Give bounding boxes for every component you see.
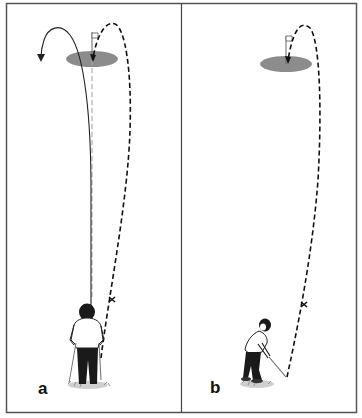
panel-b [240, 25, 320, 388]
ball-trajectory-b [287, 25, 320, 377]
figure-canvas [0, 0, 362, 418]
arrow-head-icon [37, 54, 45, 62]
golf-trajectory-figure: a b [0, 0, 362, 418]
fade-ball-trajectory-a [93, 23, 130, 358]
panel-a [37, 23, 130, 389]
golfer-side-view [240, 319, 286, 389]
panel-label-a: a [38, 380, 47, 397]
golfer-rear-view [68, 304, 110, 390]
hook-ball-flight [41, 28, 91, 306]
panel-label-b: b [210, 379, 220, 396]
